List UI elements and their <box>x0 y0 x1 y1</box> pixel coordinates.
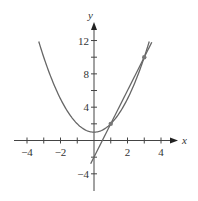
x-axis-arrow-icon <box>170 138 178 144</box>
secant-line <box>91 42 152 164</box>
y-tick-label: 8 <box>84 68 90 80</box>
y-tick-label: 4 <box>84 101 90 113</box>
chart: −4−224−44812 x y <box>0 0 198 201</box>
y-tick-label: −4 <box>77 168 89 180</box>
x-tick-label: 4 <box>158 146 164 158</box>
x-axis-label: x <box>181 134 187 146</box>
axes: −4−224−44812 <box>14 22 178 191</box>
x-tick-label: −4 <box>21 146 33 158</box>
y-axis-arrow-icon <box>91 22 97 30</box>
y-axis-label: y <box>87 9 93 21</box>
data-point <box>109 122 113 126</box>
data-point <box>142 55 146 59</box>
x-tick-label: 2 <box>125 146 131 158</box>
x-tick-label: −2 <box>55 146 67 158</box>
y-tick-label: 12 <box>78 35 89 47</box>
